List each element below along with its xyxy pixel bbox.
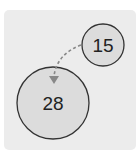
node-small: 15: [82, 24, 124, 66]
small-circle-label: 15: [92, 35, 113, 56]
large-circle-label: 28: [42, 93, 63, 114]
diagram-canvas: 15 28: [0, 0, 140, 155]
